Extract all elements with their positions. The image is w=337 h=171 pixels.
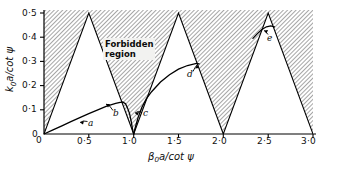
- y-axis-subscript: 0: [9, 82, 18, 87]
- y-axis-psi: ψ: [4, 47, 15, 54]
- y-axis-main: a/cot: [4, 57, 15, 82]
- y-tick-label-5: 0·5: [22, 8, 37, 18]
- curve-label-e: e: [267, 33, 272, 43]
- forbidden-region-label: Forbidden region: [103, 38, 155, 60]
- y-tick-label-3: 0·3: [22, 56, 37, 66]
- y-tick-label-0: 0: [32, 129, 38, 139]
- y-tick-label-2: 0·2: [22, 80, 37, 90]
- x-axis-title: β0a/cot ψ: [148, 151, 194, 164]
- figure-container: Forbidden region 0 0·5 1·0 1·5 2·0 2·5 3…: [0, 0, 337, 171]
- x-tick-label-5: 2·5: [257, 136, 272, 146]
- y-tick-label-4: 0·4: [22, 32, 37, 42]
- x-tick-label-3: 1·5: [167, 136, 182, 146]
- x-tick-label-2: 1·0: [122, 136, 137, 146]
- forbidden-label-line2: region: [105, 49, 153, 59]
- x-tick-label-1: 0·5: [77, 136, 92, 146]
- x-axis-psi: ψ: [187, 151, 194, 162]
- y-tick-label-1: 0·1: [22, 104, 37, 114]
- curve-label-d: d: [187, 69, 193, 79]
- curve-label-c: c: [143, 108, 148, 118]
- curve-label-a: a: [88, 118, 93, 128]
- x-axis-main: a/cot: [159, 151, 184, 162]
- y-axis-title: k0a/cot ψ: [4, 37, 17, 103]
- curve-label-b: b: [113, 108, 119, 118]
- x-tick-label-6: 3·0: [301, 136, 316, 146]
- forbidden-label-line1: Forbidden: [105, 39, 153, 49]
- y-axis-symbol: k: [4, 86, 15, 92]
- x-tick-label-4: 2·0: [212, 136, 227, 146]
